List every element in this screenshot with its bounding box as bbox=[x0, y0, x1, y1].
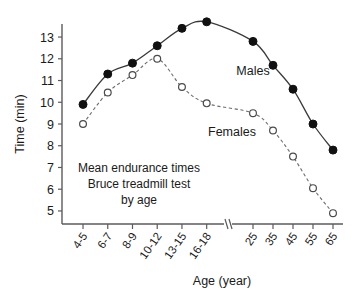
x-axis-ticks bbox=[83, 224, 333, 229]
data-point-males bbox=[249, 37, 257, 45]
data-point-males bbox=[309, 120, 317, 128]
x-axis-tick-label: 55 bbox=[302, 230, 319, 247]
x-axis-tick-label: 16-18 bbox=[187, 230, 214, 261]
x-axis-tick-labels: 4-56-78-910-1213-1516-182535455565 bbox=[70, 230, 339, 261]
data-point-males bbox=[178, 24, 186, 32]
data-point-females bbox=[179, 84, 186, 91]
y-axis: 5678910111213 bbox=[40, 24, 62, 224]
annotation-line-3: by age bbox=[121, 193, 157, 207]
x-axis-tick-label: 45 bbox=[282, 230, 299, 247]
data-point-females bbox=[310, 185, 317, 192]
data-point-females bbox=[203, 100, 210, 107]
data-point-females bbox=[290, 153, 297, 160]
y-axis-tick-label: 13 bbox=[40, 31, 54, 45]
data-point-males bbox=[79, 100, 87, 108]
x-axis-tick-label: 4-5 bbox=[70, 230, 89, 251]
y-axis-tick-label: 11 bbox=[41, 74, 54, 88]
y-axis-tick-label: 8 bbox=[47, 139, 54, 153]
y-axis-tick-label: 10 bbox=[40, 96, 54, 110]
data-point-males bbox=[269, 61, 277, 69]
y-axis-tick-label: 6 bbox=[47, 183, 54, 197]
annotation-line-1: Mean endurance times bbox=[78, 161, 200, 175]
x-axis-tick-label: 35 bbox=[262, 230, 279, 247]
data-point-females bbox=[80, 121, 87, 128]
data-point-males bbox=[203, 18, 211, 26]
x-axis-tick-label: 10-12 bbox=[137, 230, 164, 261]
data-point-males bbox=[128, 59, 136, 67]
y-axis-tick-label: 5 bbox=[47, 204, 54, 218]
y-axis-tick-label: 7 bbox=[47, 161, 54, 175]
series-label-males: Males bbox=[236, 64, 269, 78]
x-axis-tick-label: 25 bbox=[242, 230, 259, 247]
x-axis-title: Age (year) bbox=[193, 274, 251, 288]
series-label-females: Females bbox=[208, 125, 256, 139]
annotation-line-2: Bruce treadmill test bbox=[88, 177, 191, 191]
data-point-females bbox=[154, 55, 161, 62]
y-axis-tick-label: 9 bbox=[47, 118, 54, 132]
y-axis-tick-label: 12 bbox=[40, 52, 54, 66]
y-axis-tick-labels: 5678910111213 bbox=[40, 31, 54, 219]
y-axis-title: Time (min) bbox=[13, 94, 27, 153]
data-point-females bbox=[104, 89, 111, 96]
data-point-females bbox=[129, 72, 136, 79]
x-axis-tick-label: 65 bbox=[322, 230, 339, 247]
x-axis: 4-56-78-910-1213-1516-182535455565 bbox=[62, 219, 343, 261]
data-point-males bbox=[104, 70, 112, 78]
x-axis-tick-label: 6-7 bbox=[95, 230, 114, 251]
chart-container: 5678910111213 4-56-78-910-1213-1516-1825… bbox=[0, 0, 355, 293]
data-point-females bbox=[250, 110, 257, 117]
data-point-females bbox=[270, 127, 277, 134]
x-axis-tick-label: 8-9 bbox=[120, 230, 139, 251]
data-point-males bbox=[153, 42, 161, 50]
chart-annotation: Mean endurance times Bruce treadmill tes… bbox=[78, 161, 200, 207]
endurance-time-line-chart: 5678910111213 4-56-78-910-1213-1516-1825… bbox=[0, 0, 355, 293]
data-point-females bbox=[330, 210, 337, 217]
x-axis-tick-label: 13-15 bbox=[162, 230, 189, 261]
data-point-males bbox=[289, 85, 297, 93]
data-point-males bbox=[329, 146, 337, 154]
x-axis-break-marker bbox=[225, 219, 232, 229]
